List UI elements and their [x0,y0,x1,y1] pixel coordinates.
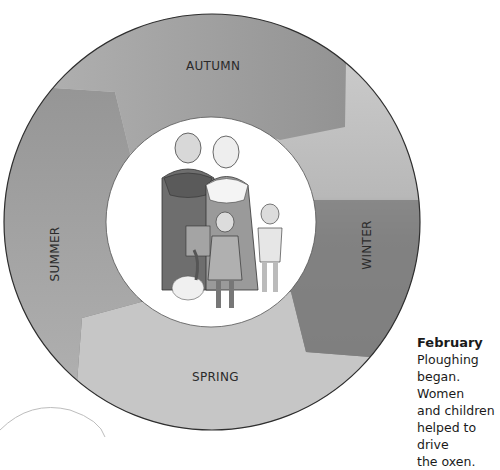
caption-line: the oxen. [417,453,500,470]
summer-label: SUMMER [48,227,62,282]
caption-line: Ploughing [417,351,500,368]
caption-line: and children [417,402,500,419]
caption-title: February [417,334,500,351]
caption-line: helped to drive [417,419,500,453]
month-caption: February Ploughing began. Women and chil… [417,334,500,470]
winter-label: WINTER [360,220,374,269]
spring-label: SPRING [192,370,239,384]
decorative-curve [0,408,105,438]
caption-line: began. Women [417,368,500,402]
autumn-label: AUTUMN [186,59,240,73]
